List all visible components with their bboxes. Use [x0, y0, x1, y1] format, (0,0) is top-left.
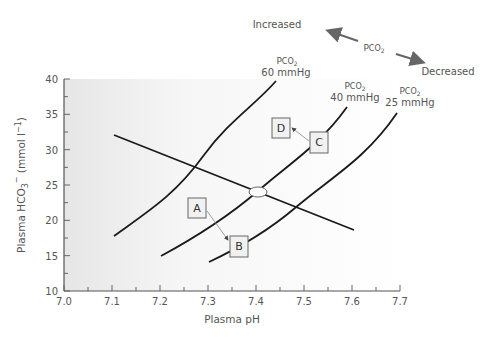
svg-text:25 mmHg: 25 mmHg [385, 97, 434, 108]
box-a: A [188, 198, 206, 218]
pco2-center-label: PCO2 [363, 43, 384, 54]
decreased-label: Decreased [421, 66, 474, 77]
box-b: B [230, 236, 248, 257]
x-tick-label: 7.5 [296, 296, 312, 307]
y-tick-label: 20 [45, 215, 58, 226]
y-tick-label: 35 [45, 109, 58, 120]
y-axis-label: Plasma HCO3− (mmol l−1) [12, 117, 30, 253]
svg-text:40 mmHg: 40 mmHg [330, 92, 379, 103]
x-tick-label: 7.4 [248, 296, 264, 307]
y-tick-label: 30 [45, 145, 58, 156]
svg-text:B: B [235, 240, 243, 253]
svg-text:A: A [193, 202, 201, 215]
increased-label: Increased [253, 19, 302, 30]
x-tick-label: 7.3 [200, 296, 216, 307]
x-tick-label: 7.1 [104, 296, 120, 307]
svg-text:60 mmHg: 60 mmHg [261, 67, 310, 78]
box-c: C [310, 132, 328, 153]
plot-background [64, 79, 400, 291]
acid-base-chart: 10152025303540 7.07.17.27.37.47.57.67.7 … [0, 0, 490, 337]
label-pco2-60: PCO2 60 mmHg [261, 56, 310, 78]
y-tick-label: 25 [45, 180, 58, 191]
y-tick-label: 15 [45, 251, 58, 262]
x-axis-label: Plasma pH [204, 313, 260, 325]
y-tick-label: 40 [45, 74, 58, 85]
svg-text:PCO2: PCO2 [276, 56, 297, 67]
svg-text:Plasma HCO3− (mmol l−1): Plasma HCO3− (mmol l−1) [12, 117, 30, 253]
svg-text:D: D [277, 122, 285, 135]
x-tick-label: 7.2 [152, 296, 168, 307]
x-tick-label: 7.0 [56, 296, 72, 307]
svg-text:C: C [315, 136, 323, 149]
box-d: D [272, 118, 290, 138]
x-tick-label: 7.7 [392, 296, 408, 307]
arrow-increased-icon [329, 31, 358, 41]
arrow-decreased-icon [396, 54, 422, 62]
svg-text:PCO2: PCO2 [399, 86, 420, 97]
normal-point-ellipse [249, 187, 267, 197]
x-tick-label: 7.6 [344, 296, 360, 307]
